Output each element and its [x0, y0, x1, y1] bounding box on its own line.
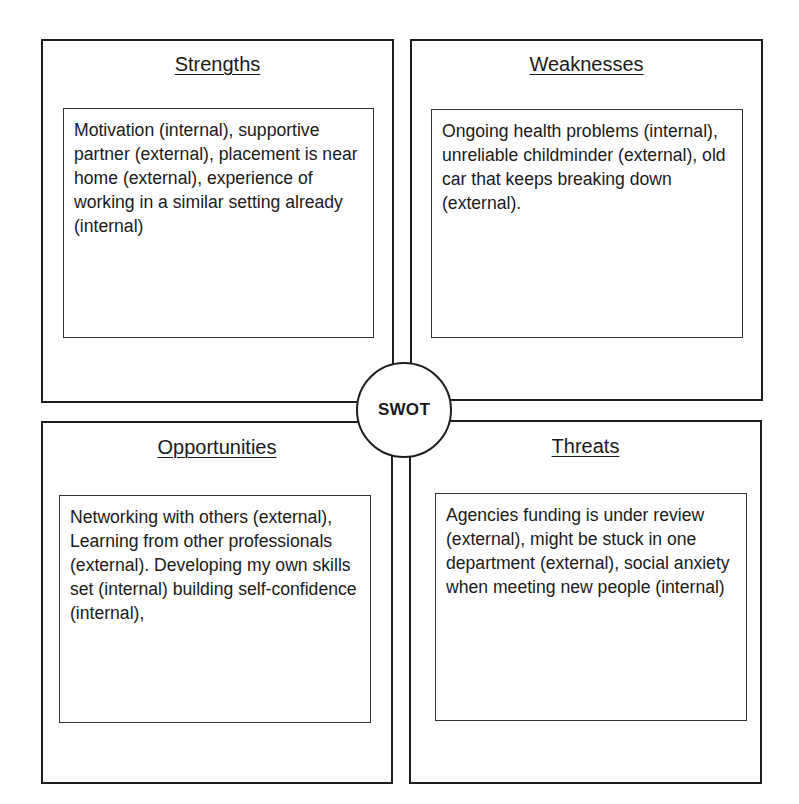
opportunities-text: Networking with others (external), Learn… [70, 505, 362, 625]
opportunities-title: Opportunities [43, 436, 391, 459]
threats-text: Agencies funding is under review (extern… [446, 503, 738, 599]
weaknesses-content-box: Ongoing health problems (internal), unre… [431, 109, 743, 338]
strengths-title: Strengths [43, 53, 392, 76]
opportunities-content-box: Networking with others (external), Learn… [59, 495, 371, 723]
strengths-quadrant: Strengths Motivation (internal), support… [41, 39, 394, 403]
strengths-text: Motivation (internal), supportive partne… [74, 118, 365, 238]
strengths-content-box: Motivation (internal), supportive partne… [63, 108, 374, 338]
weaknesses-title: Weaknesses [412, 53, 761, 76]
threats-quadrant: Threats Agencies funding is under review… [409, 420, 762, 784]
threats-title: Threats [411, 435, 760, 458]
weaknesses-quadrant: Weaknesses Ongoing health problems (inte… [410, 39, 763, 401]
swot-center-label: SWOT [378, 400, 430, 420]
threats-content-box: Agencies funding is under review (extern… [435, 493, 747, 721]
opportunities-quadrant: Opportunities Networking with others (ex… [41, 421, 393, 784]
weaknesses-text: Ongoing health problems (internal), unre… [442, 119, 734, 215]
swot-center-circle: SWOT [356, 362, 452, 458]
